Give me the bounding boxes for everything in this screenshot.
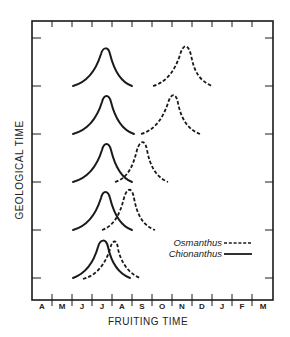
x-tick-label: J xyxy=(100,302,104,311)
chionanthus-curve-row3 xyxy=(73,144,132,182)
chionanthus-curve-row2 xyxy=(73,96,134,134)
top-ticks xyxy=(52,21,252,27)
x-axis-title: FRUITING TIME xyxy=(108,316,188,327)
x-tick-label: A xyxy=(119,302,125,311)
x-tick-label: A xyxy=(39,302,45,311)
legend-label-osmanthus: Osmanthus xyxy=(173,237,222,248)
x-tick-label: F xyxy=(240,302,245,311)
fruiting-time-chart: A M J J A S O N D J F M FRUITING TIME GE… xyxy=(0,0,290,337)
osmanthus-curve-row1 xyxy=(153,46,212,86)
x-tick-labels: A M J J A S O N D J F M xyxy=(39,302,267,311)
x-tick-label: S xyxy=(139,302,145,311)
x-tick-label: J xyxy=(80,302,84,311)
series-chionanthus xyxy=(73,48,134,278)
x-tick-label: O xyxy=(159,302,165,311)
x-tick-label: N xyxy=(179,302,185,311)
x-tick-label: M xyxy=(59,302,66,311)
osmanthus-curve-row2 xyxy=(141,95,200,134)
chionanthus-curve-row1 xyxy=(73,48,132,86)
x-tick-label: M xyxy=(260,302,267,311)
x-tick-label: J xyxy=(220,302,224,311)
chionanthus-curve-row5 xyxy=(73,241,130,278)
x-tick-label: D xyxy=(199,302,205,311)
plot-frame xyxy=(32,21,273,300)
left-ticks xyxy=(32,38,41,278)
legend-label-chionanthus: Chionanthus xyxy=(169,248,223,259)
y-axis-title: GEOLOGICAL TIME xyxy=(14,120,25,219)
legend: Osmanthus Chionanthus xyxy=(169,237,252,259)
right-ticks xyxy=(265,38,273,278)
